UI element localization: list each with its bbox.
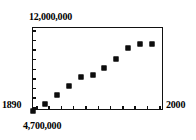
x-axis-max-label: 2000 [166, 99, 185, 110]
scatter-plot-figure: 12,000,000 1890 4,700,000 2000 [0, 0, 196, 140]
y-axis-tick [33, 59, 36, 61]
plot-frame [32, 27, 163, 110]
data-point-marker [42, 102, 47, 107]
data-point-marker [90, 72, 95, 77]
y-axis-min-label: 4,700,000 [23, 120, 61, 131]
x-axis-tick [73, 106, 75, 109]
x-axis-tick [48, 106, 50, 109]
data-point-marker [66, 83, 71, 88]
x-axis-tick [61, 106, 63, 109]
y-axis-max-label: 12,000,000 [29, 11, 72, 22]
y-axis-tick [33, 78, 36, 80]
y-axis-tick [33, 97, 36, 99]
y-axis-tick [33, 30, 36, 32]
x-axis-tick [110, 106, 112, 109]
y-axis-tick [33, 88, 36, 90]
data-point-marker [31, 109, 36, 114]
data-point-marker [150, 41, 155, 46]
y-axis-tick [33, 69, 36, 71]
x-axis-tick [122, 106, 124, 109]
x-axis-tick [36, 106, 38, 109]
data-point-marker [78, 74, 83, 79]
data-point-marker [114, 56, 119, 61]
x-axis-tick [147, 106, 149, 109]
data-point-marker [102, 65, 107, 70]
data-point-marker [126, 46, 131, 51]
x-axis-tick [159, 106, 161, 109]
plot-area [33, 28, 162, 109]
x-axis-tick [98, 106, 100, 109]
x-axis-min-label: 1890 [2, 99, 21, 110]
y-axis-tick [33, 49, 36, 51]
data-point-marker [138, 41, 143, 46]
x-axis-tick [85, 106, 87, 109]
data-point-marker [54, 93, 59, 98]
y-axis-tick [33, 40, 36, 42]
x-axis-tick [134, 106, 136, 109]
